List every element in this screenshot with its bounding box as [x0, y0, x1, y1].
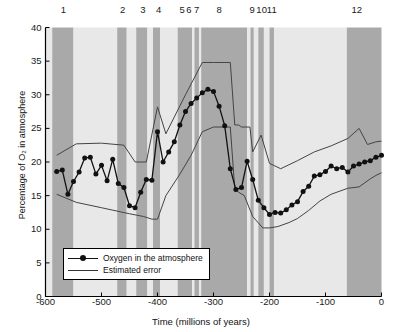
data-point — [317, 172, 322, 177]
legend-marker-line-icon — [68, 264, 98, 276]
x-tick-label: -600 — [24, 296, 68, 307]
data-point — [267, 212, 272, 217]
y-axis-title: Percentage of O₂ in atmosphere — [17, 70, 27, 240]
x-tick-label: -300 — [192, 296, 236, 307]
x-tick-label: 0 — [360, 296, 402, 307]
data-point — [116, 181, 121, 186]
data-point — [362, 160, 367, 165]
data-point — [239, 185, 244, 190]
band-20 — [270, 28, 274, 297]
data-point — [373, 155, 378, 160]
data-point — [161, 160, 166, 165]
data-point — [345, 170, 350, 175]
data-point — [245, 159, 250, 164]
x-tick-label: -500 — [80, 296, 124, 307]
data-point — [379, 153, 384, 158]
band-number-label: 4 — [152, 4, 166, 15]
data-point — [133, 205, 138, 210]
data-point — [121, 185, 126, 190]
data-point — [340, 165, 345, 170]
data-point — [301, 189, 306, 194]
data-point — [155, 129, 160, 134]
data-point — [273, 210, 278, 215]
data-point — [144, 177, 149, 182]
data-point — [172, 139, 177, 144]
band-number-label: 3 — [136, 4, 150, 15]
band-number-label: 7 — [190, 4, 204, 15]
legend-item: Oxygen in the atmosphere — [68, 252, 203, 264]
legend-key-dot — [80, 255, 86, 261]
band-number-label: 2 — [116, 4, 130, 15]
band-16 — [250, 28, 253, 297]
x-tick-label: -100 — [304, 296, 348, 307]
data-point — [99, 163, 104, 168]
legend-item: Estimated error — [68, 264, 203, 276]
data-point — [261, 205, 266, 210]
data-point — [284, 207, 289, 212]
band-number-label: 8 — [212, 4, 226, 15]
data-point — [289, 203, 294, 208]
x-tick-label: -200 — [248, 296, 292, 307]
legend-key-line — [68, 270, 98, 271]
data-point — [105, 178, 110, 183]
legend-marker-line-dot-icon — [68, 252, 98, 264]
data-point — [71, 179, 76, 184]
band-number-label: 1 — [56, 4, 70, 15]
y-tick-label: 40 — [8, 22, 42, 33]
band-number-label: 12 — [350, 4, 364, 15]
data-point — [228, 166, 233, 171]
data-point — [334, 166, 339, 171]
band-18 — [258, 28, 264, 297]
data-point — [82, 155, 87, 160]
legend: Oxygen in the atmosphereEstimated error — [63, 248, 210, 280]
data-point — [323, 169, 328, 174]
legend-label: Estimated error — [103, 264, 161, 276]
band-17 — [254, 28, 258, 297]
oxygen-atmosphere-chart: 0510152025303540-600-500-400-300-200-100… — [0, 0, 402, 332]
data-point — [166, 149, 171, 154]
data-point — [329, 164, 334, 169]
data-point — [88, 155, 93, 160]
x-tick-label: -400 — [136, 296, 180, 307]
x-axis-title: Time (millions of years) — [0, 316, 402, 327]
data-point — [177, 123, 182, 128]
y-tick-label: 5 — [8, 257, 42, 268]
data-point — [357, 162, 362, 167]
data-point — [110, 157, 115, 162]
data-point — [65, 192, 70, 197]
data-point — [183, 109, 188, 114]
data-point — [278, 211, 283, 216]
data-point — [217, 104, 222, 109]
data-point — [211, 89, 216, 94]
data-point — [205, 87, 210, 92]
data-point — [189, 101, 194, 106]
data-point — [295, 199, 300, 204]
data-point — [250, 177, 255, 182]
legend-label: Oxygen in the atmosphere — [103, 252, 203, 264]
data-point — [222, 123, 227, 128]
data-point — [306, 184, 311, 189]
data-point — [233, 187, 238, 192]
data-point — [149, 178, 154, 183]
plot-canvas — [0, 0, 402, 332]
data-point — [93, 172, 98, 177]
data-point — [312, 174, 317, 179]
data-point — [54, 169, 59, 174]
data-point — [138, 190, 143, 195]
data-point — [256, 198, 261, 203]
data-point — [127, 203, 132, 208]
band-number-label: 11 — [265, 4, 279, 15]
data-point — [368, 158, 373, 163]
data-point — [194, 96, 199, 101]
y-tick-label: 35 — [8, 55, 42, 66]
data-point — [351, 164, 356, 169]
data-point — [60, 168, 65, 173]
band-21 — [274, 28, 347, 297]
data-point — [200, 90, 205, 95]
data-point — [77, 170, 82, 175]
